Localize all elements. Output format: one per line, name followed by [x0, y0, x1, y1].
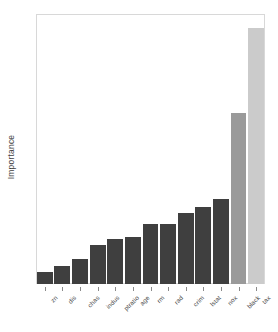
bar	[178, 213, 194, 284]
x-axis-tick-mark	[186, 287, 187, 291]
bar	[107, 239, 123, 284]
x-axis-tick-mark	[256, 287, 257, 291]
x-axis-tick-mark	[115, 287, 116, 291]
x-axis-tick-mark	[151, 287, 152, 291]
y-axis-title: Importance	[6, 117, 16, 197]
x-axis-tick-mark	[98, 287, 99, 291]
bar	[248, 28, 264, 284]
bar	[125, 237, 141, 284]
x-axis-tick-mark	[203, 287, 204, 291]
bar	[54, 266, 70, 284]
x-axis-tick-label: chas	[86, 294, 101, 309]
x-axis-tick-mark	[80, 287, 81, 291]
x-axis-tick-label: indus	[104, 294, 120, 310]
x-axis-tick-mark	[62, 287, 63, 291]
x-axis-tick-label: age	[138, 294, 151, 307]
x-axis-tick-label: lstat	[209, 294, 222, 307]
x-axis-tick-label: ptratio	[123, 294, 141, 312]
x-axis-tick-label: black	[245, 294, 261, 310]
x-axis-tick-label: rm	[155, 294, 165, 304]
x-axis-tick-label: crim	[191, 294, 205, 308]
bar	[195, 207, 211, 284]
bar	[143, 224, 159, 284]
bar	[90, 245, 106, 284]
x-axis-tick-label: zn	[49, 294, 59, 304]
x-axis-tick-mark	[239, 287, 240, 291]
bar	[213, 199, 229, 284]
bars-layer	[0, 0, 278, 332]
variable-importance-chart: Importance 0.00.10.2 zndischasindusptrat…	[0, 0, 278, 332]
x-axis-tick-label: rad	[173, 294, 185, 306]
x-axis-tick-label: nox	[226, 294, 238, 306]
x-axis-tick-mark	[168, 287, 169, 291]
y-axis: Importance 0.00.10.2	[0, 0, 36, 332]
bar	[231, 113, 247, 285]
x-axis-tick-mark	[45, 287, 46, 291]
x-axis-tick-label: dis	[67, 294, 78, 305]
bar	[37, 272, 53, 284]
x-axis: zndischasindusptratioagermradcrimlstatno…	[0, 284, 278, 332]
bar	[160, 224, 176, 284]
x-axis-tick-label: tax	[261, 294, 272, 305]
x-axis-tick-mark	[221, 287, 222, 291]
x-axis-tick-mark	[133, 287, 134, 291]
bar	[72, 259, 88, 284]
